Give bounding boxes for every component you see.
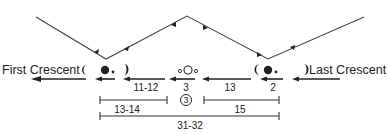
moon-symbols — [82, 64, 309, 75]
crescent-moon-icon — [82, 65, 87, 75]
interval-label-3: 3 — [183, 82, 189, 94]
bracket-label-31-32: 31-32 — [177, 120, 203, 132]
interval-label-11-12: 11-12 — [134, 82, 159, 94]
bracket-label-13-14: 13-14 — [114, 104, 140, 116]
new-moon-icon — [101, 66, 109, 74]
interval-label-2: 2 — [270, 82, 276, 94]
crescent-moon-icon — [304, 64, 309, 75]
crescent-moon-icon — [124, 64, 129, 75]
interval-label-13: 13 — [224, 82, 235, 94]
bracket-label-15: 15 — [234, 104, 245, 116]
zigzag-path — [36, 16, 364, 59]
last-crescent-label: Last Crescent — [309, 63, 386, 77]
path-direction-arrows — [94, 22, 295, 57]
first-crescent-label: First Crescent — [2, 63, 80, 77]
circled-number-label: 3 — [183, 94, 188, 106]
small-circle-icon — [178, 69, 181, 72]
crescent-moon-icon — [255, 64, 261, 75]
small-circle-icon — [194, 69, 197, 72]
full-moon-icon — [184, 66, 192, 74]
new-moon-icon — [264, 66, 272, 74]
